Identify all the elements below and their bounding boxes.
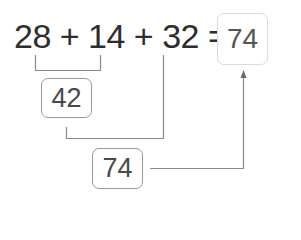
total-box: 74	[92, 148, 143, 189]
bracket-28-14	[36, 55, 101, 71]
partial-sum-box: 42	[41, 78, 92, 118]
total-value: 74	[102, 153, 132, 184]
partial-sum-value: 42	[51, 83, 81, 114]
arrowhead-icon	[241, 70, 247, 78]
